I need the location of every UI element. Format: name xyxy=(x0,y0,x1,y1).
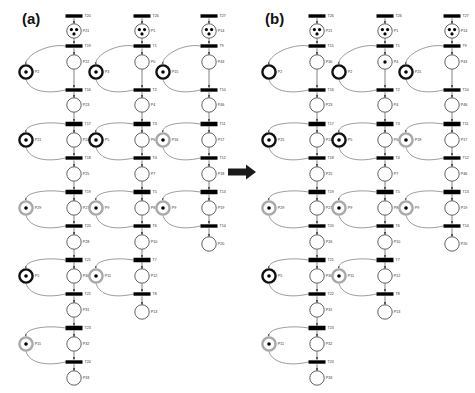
transition-t9[interactable]: T9 xyxy=(201,44,224,48)
side-place-p11[interactable]: P11 xyxy=(262,337,284,350)
place-p19[interactable]: P19 xyxy=(445,201,467,215)
place-p26[interactable]: P26 xyxy=(310,235,332,249)
transition-t13[interactable]: T13 xyxy=(444,190,469,195)
place-p10[interactable]: P10 xyxy=(378,235,400,249)
transition-t14[interactable]: T14 xyxy=(444,224,469,228)
place-p28[interactable]: P28 xyxy=(67,235,89,249)
side-place-p2[interactable]: P2 xyxy=(19,65,39,78)
place-p23[interactable]: P23 xyxy=(310,98,332,112)
side-place-p16[interactable]: P16 xyxy=(156,133,178,146)
side-place-p18[interactable]: P18 xyxy=(399,133,421,146)
place-p0[interactable]: P0 xyxy=(135,55,155,69)
place-p27[interactable]: P27 xyxy=(67,201,89,215)
place-p21[interactable]: P21 xyxy=(310,24,332,38)
place-p30[interactable]: P30 xyxy=(310,269,332,283)
place-p1[interactable]: P1 xyxy=(135,24,155,38)
side-place-p11b[interactable]: P11 xyxy=(89,269,111,282)
transition-t24[interactable]: T24 xyxy=(66,360,91,364)
place-p25[interactable]: P25 xyxy=(67,167,89,181)
transition-t19[interactable]: T19 xyxy=(66,44,91,48)
side-place-p29[interactable]: P29 xyxy=(19,201,41,214)
transition-t27[interactable]: T27 xyxy=(201,14,226,18)
transition-t1[interactable]: T1 xyxy=(377,44,400,48)
transition-t2[interactable]: T2 xyxy=(377,88,400,92)
place-p14[interactable]: P14 xyxy=(202,24,224,38)
transition-t20[interactable]: T20 xyxy=(309,224,334,228)
transition-t21[interactable]: T21 xyxy=(66,258,91,263)
side-place-p21[interactable]: P21 xyxy=(19,133,41,146)
place-p19[interactable]: P19 xyxy=(202,201,224,215)
transition-t26[interactable]: T26 xyxy=(377,14,402,18)
transition-t12[interactable]: T12 xyxy=(444,156,469,160)
place-p17[interactable]: P17 xyxy=(202,133,224,147)
transition-t5[interactable]: T5 xyxy=(377,190,400,195)
transition-t23[interactable]: T23 xyxy=(309,326,334,331)
place-p6[interactable]: P6 xyxy=(135,133,155,147)
place-p20[interactable]: P20 xyxy=(445,237,467,251)
transition-t4[interactable]: T4 xyxy=(134,156,157,160)
side-place-p11[interactable]: P11 xyxy=(19,337,41,350)
place-p6[interactable]: P6 xyxy=(378,133,398,147)
transition-t22[interactable]: T22 xyxy=(66,292,91,296)
side-place-p9b[interactable]: P9 xyxy=(399,201,419,214)
transition-t15[interactable]: T15 xyxy=(309,44,334,48)
transition-t16[interactable]: T16 xyxy=(66,88,91,92)
transition-t24[interactable]: T24 xyxy=(309,360,334,364)
place-p24[interactable]: P24 xyxy=(67,133,89,147)
place-p12[interactable]: P12 xyxy=(135,269,157,283)
place-p31[interactable]: P31 xyxy=(310,303,332,317)
transition-t13[interactable]: T13 xyxy=(201,190,226,195)
transition-t19[interactable]: T19 xyxy=(66,190,91,195)
transition-t22[interactable]: T22 xyxy=(309,292,334,296)
side-place-p5[interactable]: P5 xyxy=(262,269,282,282)
place-p21[interactable]: P21 xyxy=(67,24,89,38)
place-p25[interactable]: P25 xyxy=(310,167,332,181)
place-p7[interactable]: P7 xyxy=(135,167,155,181)
side-place-p9[interactable]: P9 xyxy=(89,201,109,214)
place-p32[interactable]: P32 xyxy=(67,337,89,351)
transition-t18[interactable]: T18 xyxy=(66,156,91,160)
transition-t6[interactable]: T6 xyxy=(134,224,157,228)
side-place-p9[interactable]: P9 xyxy=(332,201,352,214)
place-p13[interactable]: P13 xyxy=(135,305,157,319)
place-p17[interactable]: P17 xyxy=(445,133,467,147)
side-place-p5b[interactable]: P5 xyxy=(332,133,352,146)
place-p8[interactable]: P8 xyxy=(378,201,398,215)
place-p8[interactable]: P8 xyxy=(135,201,155,215)
place-p4[interactable]: P4 xyxy=(378,55,398,69)
transition-t17[interactable]: T17 xyxy=(309,122,334,127)
transition-t8[interactable]: T8 xyxy=(377,292,400,296)
transition-t9[interactable]: T9 xyxy=(444,44,467,48)
transition-t20[interactable]: T20 xyxy=(66,14,91,18)
side-place-p2b[interactable]: P2 xyxy=(332,65,352,78)
side-place-p25[interactable]: P25 xyxy=(262,133,284,146)
transition-t6[interactable]: T6 xyxy=(377,224,400,228)
transition-t14[interactable]: T14 xyxy=(201,224,226,228)
place-p13[interactable]: P13 xyxy=(378,305,400,319)
place-p43[interactable]: P43 xyxy=(202,55,224,69)
place-p1[interactable]: P1 xyxy=(378,24,398,38)
place-p30[interactable]: P30 xyxy=(310,55,332,69)
side-place-p25b[interactable]: P25 xyxy=(399,65,421,78)
side-place-p15[interactable]: P15 xyxy=(156,65,178,78)
side-place-p2[interactable]: P2 xyxy=(262,65,282,78)
place-p32[interactable]: P32 xyxy=(310,337,332,351)
transition-t20[interactable]: T20 xyxy=(66,224,91,228)
transition-t10[interactable]: T10 xyxy=(201,88,226,92)
transition-t26[interactable]: T26 xyxy=(134,14,159,18)
side-place-p5b[interactable]: P5 xyxy=(89,133,109,146)
place-p4[interactable]: P4 xyxy=(378,98,398,112)
transition-t5[interactable]: T5 xyxy=(134,190,157,195)
transition-t21[interactable]: T21 xyxy=(309,258,334,263)
transition-t3[interactable]: T3 xyxy=(377,122,400,127)
transition-t27[interactable]: T27 xyxy=(444,14,469,18)
place-p20[interactable]: P20 xyxy=(202,237,224,251)
place-p4[interactable]: P4 xyxy=(135,98,155,112)
transition-t17[interactable]: T17 xyxy=(66,122,91,127)
place-p7[interactable]: P7 xyxy=(378,167,398,181)
transition-t16[interactable]: T16 xyxy=(309,88,334,92)
transition-t26[interactable]: T26 xyxy=(309,14,334,18)
place-p30[interactable]: P30 xyxy=(67,269,89,283)
place-p23[interactable]: P23 xyxy=(67,98,89,112)
place-p33[interactable]: P33 xyxy=(67,371,89,385)
